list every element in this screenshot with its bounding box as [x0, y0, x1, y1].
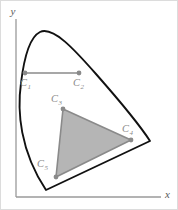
- point-label-c5-subscript: 5: [45, 164, 49, 172]
- chromaticity-diagram: y x C 1 C 2 C 3 C 4: [1, 1, 178, 210]
- data-point-c1: [23, 71, 28, 76]
- axes-group: y x: [10, 5, 170, 200]
- figure-container: y x C 1 C 2 C 3 C 4: [0, 0, 178, 210]
- point-label-c2: C 2: [73, 77, 85, 91]
- data-point-c3: [61, 107, 66, 112]
- point-label-c5: C 5: [37, 158, 49, 172]
- data-point-c2: [77, 71, 82, 76]
- point-label-c4-subscript: 4: [130, 129, 134, 137]
- point-label-c3: C 3: [51, 93, 63, 107]
- point-label-c2-subscript: 2: [81, 83, 85, 91]
- y-axis-label: y: [10, 5, 16, 17]
- data-point-c4: [129, 138, 134, 143]
- point-label-c3-subscript: 3: [58, 99, 63, 107]
- point-label-c1: C 1: [20, 77, 31, 91]
- data-point-c5: [54, 175, 59, 180]
- point-label-c1-subscript: 1: [28, 83, 32, 91]
- x-axis-label: x: [164, 188, 170, 200]
- point-label-c4: C 4: [122, 123, 134, 137]
